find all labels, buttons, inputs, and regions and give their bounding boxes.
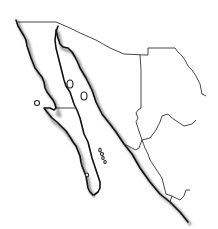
isla-santa-catalina: [102, 157, 104, 160]
isla-monserrat: [101, 153, 104, 156]
isla-margarita: [86, 173, 89, 177]
isla-carmen: [99, 148, 101, 152]
coast-shadows: [18, 22, 190, 224]
durango-nayarit-border: [170, 196, 172, 202]
outline-map: [0, 0, 218, 229]
baja-pacific-coast: [16, 20, 93, 195]
isla-angel-de-la-guarda: [67, 80, 73, 88]
isla-espiritu-santo: [104, 161, 106, 164]
mainland-coast: [56, 30, 188, 222]
isla-tiburon: [81, 92, 87, 100]
sonora-chihuahua-border: [136, 55, 142, 140]
isla-cedros: [35, 101, 40, 106]
baja-gulf-coast: [55, 26, 100, 195]
chihuahua-durango-border: [142, 114, 196, 140]
